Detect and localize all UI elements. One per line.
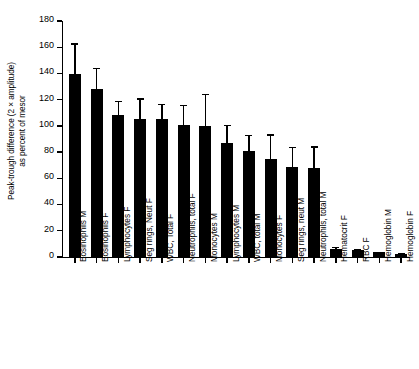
y-tick-label: 120 <box>39 93 54 103</box>
error-bar-line <box>205 94 206 126</box>
error-bar-cap <box>115 101 122 102</box>
x-tick-label: Seg rings, neut M <box>296 198 306 262</box>
error-bar-cap <box>180 105 187 106</box>
error-bar-cap <box>202 94 209 95</box>
error-bar-line <box>313 146 314 168</box>
y-axis-title-line1: Peak-trough difference (2 × amplitude) <box>7 62 16 200</box>
y-tick: 40 <box>57 204 62 205</box>
y-tick: 160 <box>57 47 62 48</box>
y-tick-label: 60 <box>44 171 54 181</box>
y-tick: 100 <box>57 125 62 126</box>
error-bar-cap <box>311 146 318 147</box>
x-axis-labels: Eosinophils MEosinophils FLymphocytes FS… <box>62 258 410 369</box>
y-axis-title-text: Peak-trough difference (2 × amplitude) a… <box>7 62 28 200</box>
x-tick-label: Neutrophils, total M <box>318 192 328 262</box>
y-tick-label: 20 <box>44 224 54 234</box>
x-tick-label: Seg rings, Neut F <box>144 198 154 262</box>
error-bar-line <box>139 98 140 119</box>
error-bar-cap <box>398 253 405 254</box>
x-tick-label: Lymphocytes M <box>231 205 241 262</box>
y-tick-label: 140 <box>39 66 54 76</box>
bar-chart-figure: Peak-trough difference (2 × amplitude) a… <box>0 0 419 369</box>
y-tick-label: 100 <box>39 119 54 129</box>
error-bar-line <box>74 43 75 74</box>
y-tick: 140 <box>57 73 62 74</box>
error-bar-cap <box>93 68 100 69</box>
y-axis-title: Peak-trough difference (2 × amplitude) a… <box>0 0 34 262</box>
y-axis-line <box>62 21 63 257</box>
y-axis-title-line2: as percent of mesor <box>17 62 28 200</box>
x-tick-label: WBC, Total F <box>165 214 175 262</box>
x-tick-label: Monocytes F <box>274 215 284 262</box>
error-bar-line <box>270 134 271 158</box>
error-bar-line <box>161 104 162 120</box>
y-tick: 20 <box>57 230 62 231</box>
y-tick-label: 80 <box>44 145 54 155</box>
x-tick-label: Hematocrit F <box>339 215 349 262</box>
error-bar-cap <box>376 252 383 253</box>
y-tick-label: 0 <box>49 250 54 260</box>
y-tick-label: 180 <box>39 14 54 24</box>
x-tick-label: Lymphocytes F <box>122 207 132 262</box>
x-tick-label: Monocytes M <box>209 213 219 262</box>
y-tick: 80 <box>57 151 62 152</box>
error-bar-line <box>96 68 97 88</box>
x-tick-label: RBC F <box>361 237 371 262</box>
error-bar-line <box>248 135 249 151</box>
error-bar-cap <box>137 98 144 99</box>
error-bar-cap <box>267 134 274 135</box>
error-bar-line <box>226 125 227 143</box>
x-tick-label: WBC, total M <box>252 214 262 262</box>
error-bar-line <box>118 101 119 115</box>
error-bar-line <box>292 147 293 167</box>
y-tick: 60 <box>57 178 62 179</box>
error-bar-cap <box>158 104 165 105</box>
y-tick-label: 160 <box>39 40 54 50</box>
error-bar-cap <box>245 135 252 136</box>
x-tick-label: Eosinophils F <box>100 213 110 262</box>
error-bar-cap <box>289 147 296 148</box>
x-tick-label: Eosinophils M <box>78 211 88 262</box>
error-bar-line <box>183 105 184 125</box>
y-tick-label: 40 <box>44 197 54 207</box>
error-bar-cap <box>224 125 231 126</box>
x-tick-label: Neutrophils, total F <box>187 193 197 262</box>
error-bar-cap <box>71 43 78 44</box>
x-tick-label: Hemoglobin F <box>405 211 415 262</box>
y-tick: 120 <box>57 99 62 100</box>
x-tick-label: Hemoglobin M <box>383 209 393 262</box>
y-tick: 180 <box>57 20 62 21</box>
